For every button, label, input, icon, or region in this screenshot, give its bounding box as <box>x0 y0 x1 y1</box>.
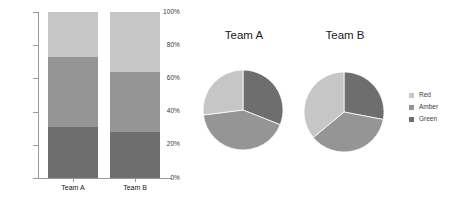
chart-figure: 100%80%60%40%20%0% Team ATeam B Team ATe… <box>0 0 458 200</box>
bar-segment-green <box>48 127 98 178</box>
legend-swatch-green <box>409 117 414 122</box>
pie-slice-green <box>344 72 384 120</box>
legend-item: Red <box>409 89 438 101</box>
stacked-bar-chart: 100%80%60%40%20%0% Team ATeam B <box>0 0 180 200</box>
y-axis-tick-mark <box>33 45 38 46</box>
y-axis-tick-mark <box>33 145 38 146</box>
bar-segment-red <box>110 12 160 72</box>
bar-segment-red <box>48 12 98 57</box>
y-axis-tick-mark <box>33 112 38 113</box>
pie-slice-red <box>203 70 243 115</box>
legend-label: Amber <box>419 104 438 111</box>
y-axis-line <box>38 12 39 179</box>
y-axis-tick-mark <box>33 12 38 13</box>
legend-label: Green <box>419 116 437 123</box>
pie-chart-canvas <box>198 0 290 200</box>
pie-chart-canvas <box>299 0 391 200</box>
bar-segment-green <box>110 132 160 178</box>
x-axis-category-label: Team B <box>110 184 160 191</box>
pie-chart: Team A <box>198 0 290 200</box>
y-axis-tick-mark <box>33 78 38 79</box>
pie-chart: Team B <box>299 0 391 200</box>
legend-swatch-red <box>409 93 414 98</box>
legend-item: Green <box>409 113 438 125</box>
y-axis-tick-mark <box>33 178 38 179</box>
bar-stack <box>110 12 160 178</box>
x-axis-tick-mark <box>73 178 74 182</box>
bar-stack <box>48 12 98 178</box>
x-axis-tick-mark <box>135 178 136 182</box>
bar-segment-amber <box>48 57 98 127</box>
legend-item: Amber <box>409 101 438 113</box>
bar-segment-amber <box>110 72 160 132</box>
chart-legend: RedAmberGreen <box>409 89 438 125</box>
legend-swatch-amber <box>409 105 414 110</box>
legend-label: Red <box>419 92 431 99</box>
x-axis-category-label: Team A <box>48 184 98 191</box>
